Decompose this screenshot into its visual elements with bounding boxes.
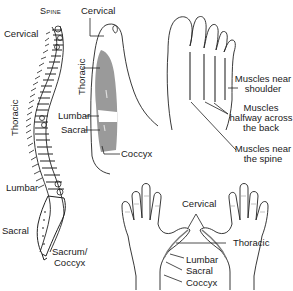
foot-side-label-lumbar: Lumbar: [58, 111, 90, 121]
foot-side-label-sacral: Sacral: [61, 125, 88, 135]
foot-top-label-shoulder: Muscles near shoulder: [234, 74, 292, 94]
spine-illustration: [26, 26, 65, 260]
spine-label-thoracic: Thoracic: [10, 100, 20, 136]
spine-label-lumbar: Lumbar: [6, 183, 38, 193]
foot-side-label-thoracic: Thoracic: [77, 59, 87, 95]
spine-reflex-zone: [95, 50, 117, 152]
foot-top-label-spine-line2: the spine: [234, 154, 292, 164]
foot-top-label-halfway-line3: the back: [228, 123, 293, 133]
foot-side-label-coccyx: Coccyx: [121, 149, 152, 159]
spine-title: Spine: [40, 6, 61, 16]
hands-label-thoracic: Thoracic: [233, 238, 269, 248]
hands-label-lumbar: Lumbar: [186, 255, 218, 265]
spine-label-coccyx: Coccyx: [54, 258, 85, 268]
spine-label-sacral: Sacral: [2, 226, 29, 236]
foot-side-label-cervical: Cervical: [81, 6, 115, 16]
hands-label-cervical: Cervical: [182, 199, 216, 209]
spine-label-sacrum: Sacrum/: [52, 247, 87, 257]
foot-top-label-halfway: Muscles halfway across the back: [228, 103, 293, 133]
hands-label-coccyx: Coccyx: [186, 278, 217, 288]
hands-label-sacral: Sacral: [186, 266, 213, 276]
foot-top-label-shoulder-line2: shoulder: [234, 84, 292, 94]
foot-top-label-spine: Muscles near the spine: [234, 144, 292, 164]
spine-label-cervical: Cervical: [4, 29, 38, 39]
